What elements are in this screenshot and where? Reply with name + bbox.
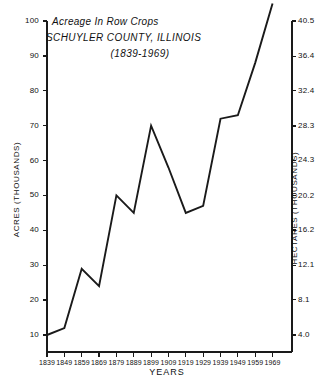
y-axis-left-title: ACRES (THOUSANDS) — [12, 142, 21, 238]
y-axis-right-tick-label: 40.5 — [298, 16, 324, 25]
chart-title-block: Acreage In Row Crops SCHUYLER COUNTY, IL… — [46, 14, 256, 62]
y-axis-right-tick-label: 20.2 — [298, 191, 324, 200]
y-axis-right-tick-label: 8.1 — [298, 295, 324, 304]
y-axis-right-tick-label: 16.2 — [298, 225, 324, 234]
chart-figure: Acreage In Row Crops SCHUYLER COUNTY, IL… — [0, 0, 334, 385]
y-axis-left-tick-label: 80 — [17, 86, 39, 95]
chart-title: Acreage In Row Crops — [46, 14, 256, 30]
y-axis-left-tick-label: 30 — [17, 260, 39, 269]
y-axis-right-tick-label: 32.4 — [298, 86, 324, 95]
x-axis-title: YEARS — [0, 367, 334, 377]
y-axis-right-tick-label: 4.0 — [298, 330, 324, 339]
y-axis-left-tick-label: 10 — [17, 330, 39, 339]
x-axis-tick-label: 1969 — [261, 359, 285, 366]
y-axis-right-title: HECTARES (THOUSANDS) — [290, 169, 299, 265]
y-axis-right-tick-label: 24.3 — [298, 155, 324, 164]
y-axis-right-tick-label: 36.4 — [298, 51, 324, 60]
chart-subtitle: SCHUYLER COUNTY, ILLINOIS — [46, 30, 256, 46]
y-axis-left-tick-label: 90 — [17, 51, 39, 60]
chart-axes — [43, 21, 296, 357]
chart-subtitle-years: (1839-1969) — [46, 46, 256, 62]
y-axis-left-tick-label: 100 — [17, 16, 39, 25]
y-axis-left-tick-label: 70 — [17, 121, 39, 130]
y-axis-right-tick-label: 12.1 — [298, 260, 324, 269]
y-axis-left-tick-label: 20 — [17, 295, 39, 304]
y-axis-right-tick-label: 28.3 — [298, 121, 324, 130]
